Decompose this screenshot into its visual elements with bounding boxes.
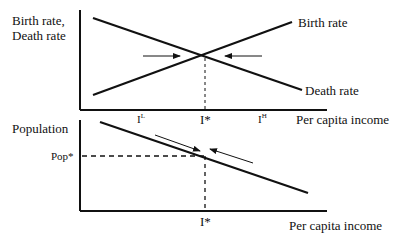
bottom-panel: Population Pop* I* Per capita income	[12, 120, 382, 233]
tick-i-star-bottom: I*	[200, 214, 211, 229]
top-y-axis-label-line1: Birth rate,	[12, 13, 65, 28]
death-rate-label: Death rate	[305, 83, 359, 98]
birth-rate-line	[93, 22, 292, 95]
birth-rate-label: Birth rate	[298, 15, 348, 30]
bottom-x-axis-label: Per capita income	[289, 218, 382, 233]
population-curve	[100, 122, 308, 193]
tick-i-high: IH	[258, 112, 267, 125]
top-y-axis-label-line2: Death rate	[12, 28, 66, 43]
top-panel: Birth rate, Death rate Birth rate Death …	[12, 10, 389, 127]
bottom-y-axis-label: Population	[12, 121, 69, 136]
pop-star-label: Pop*	[51, 150, 74, 162]
tick-i-star-top: I*	[200, 112, 211, 127]
population-income-diagram: Birth rate, Death rate Birth rate Death …	[0, 0, 401, 238]
tick-i-low: IL	[137, 112, 145, 125]
top-x-axis-label: Per capita income	[296, 112, 389, 127]
